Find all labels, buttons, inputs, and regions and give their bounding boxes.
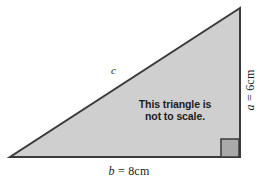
right-triangle-shape [10, 8, 240, 157]
height-value: = 6cm [242, 70, 256, 101]
not-to-scale-note-line-1: This triangle is [133, 99, 217, 111]
height-length-label: a = 6cm [242, 70, 257, 111]
height-label-container: a = 6cm [241, 50, 258, 130]
not-to-scale-note-line-2: not to scale. [133, 111, 217, 123]
base-variable: b [109, 164, 115, 178]
base-value: = 8cm [118, 164, 149, 178]
right-angle-marker [221, 139, 239, 157]
base-length-label: b = 8cm [0, 165, 258, 178]
not-to-scale-note: This triangle is not to scale. [133, 99, 217, 123]
triangle-diagram-figure: c This triangle is not to scale. b = 8cm… [0, 0, 258, 181]
height-variable: a [242, 104, 256, 110]
triangle-graphic [0, 0, 258, 181]
hypotenuse-label: c [111, 64, 116, 76]
